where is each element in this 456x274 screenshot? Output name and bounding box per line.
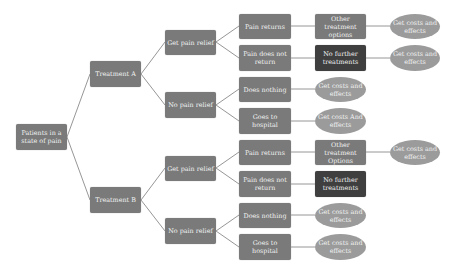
node-label: Get pain relief — [167, 39, 214, 47]
outcome-a-does-nothing: Get costs and effects — [315, 77, 366, 102]
node-label: Get costs and effects — [392, 50, 438, 66]
node-treatment-a: Treatment A — [90, 61, 141, 87]
node-label: Treatment B — [95, 196, 136, 204]
node-label: Get costs and effects — [317, 82, 364, 98]
node-label: No pain relief — [168, 101, 213, 109]
outcome-a-goes-to-hospital: Get costs And effects — [315, 108, 366, 134]
outcome-b-does-nothing: Get costs and effects — [315, 203, 366, 228]
node-b-get-pain-relief: Get pain relief — [165, 156, 216, 181]
node-label: Goes to hospital — [241, 113, 289, 129]
node-a-other-treatment-options: Other treatment options — [315, 14, 366, 39]
outcome-b-goes-to-hospital: Get costs and effects — [315, 234, 366, 260]
node-label: Does nothing — [244, 212, 287, 220]
node-label: Get costs and effects — [317, 239, 364, 255]
outcome-a-other-treatment: Get costs and effects — [390, 14, 440, 39]
node-label: Other treatment options — [317, 15, 364, 39]
node-label: Get costs and effects — [392, 19, 438, 35]
node-a-pain-returns: Pain returns — [239, 14, 291, 39]
node-a-get-pain-relief: Get pain relief — [165, 30, 216, 55]
node-a-does-nothing: Does nothing — [239, 77, 291, 102]
node-label: Other treatment Options — [317, 141, 364, 165]
node-label: Does nothing — [244, 86, 287, 94]
node-label: Get costs and effects — [317, 208, 364, 224]
node-b-no-further-treatments: No further treatments — [315, 171, 366, 197]
node-label: Get pain relief — [167, 165, 214, 173]
node-label: Pain returns — [245, 149, 285, 157]
node-label: Get costs And effects — [317, 113, 364, 129]
node-b-does-nothing: Does nothing — [239, 203, 291, 228]
outcome-b-other-treatment: Get costs and effects — [390, 140, 440, 165]
node-root: Patients in a state of pain — [16, 124, 67, 150]
node-label: Pain does not return — [241, 50, 289, 66]
node-label: Get costs and effects — [392, 145, 438, 161]
tree-edges — [0, 0, 456, 274]
node-label: Pain returns — [245, 23, 285, 31]
node-label: No further treatments — [317, 176, 364, 192]
outcome-a-no-further-treatments: Get costs and effects — [390, 45, 440, 71]
node-label: No pain relief — [168, 227, 213, 235]
node-b-other-treatment-options: Other treatment Options — [315, 140, 366, 165]
node-label: Pain does not return — [241, 176, 289, 192]
node-b-goes-to-hospital: Goes to hospital — [239, 234, 291, 260]
node-a-pain-does-not-return: Pain does not return — [239, 45, 291, 71]
node-a-no-further-treatments: No further treatments — [315, 45, 366, 71]
node-a-goes-to-hospital: Goes to hospital — [239, 108, 291, 134]
node-label: Patients in a state of pain — [18, 129, 65, 145]
node-a-no-pain-relief: No pain relief — [165, 92, 216, 118]
decision-tree-diagram: Patients in a state of pain Treatment A … — [0, 0, 456, 274]
node-treatment-b: Treatment B — [90, 187, 141, 213]
node-label: Treatment A — [95, 70, 136, 78]
node-label: No further treatments — [317, 50, 364, 66]
node-b-pain-does-not-return: Pain does not return — [239, 171, 291, 197]
node-b-no-pain-relief: No pain relief — [165, 218, 216, 244]
node-label: Goes to hospital — [241, 239, 289, 255]
node-b-pain-returns: Pain returns — [239, 140, 291, 165]
